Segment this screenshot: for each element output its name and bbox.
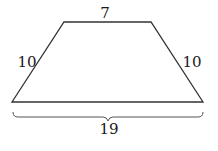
label-left: 10 xyxy=(17,53,36,71)
trapezoid-diagram: 7 10 10 19 xyxy=(0,0,218,151)
label-top: 7 xyxy=(100,4,110,22)
label-right: 10 xyxy=(182,53,201,71)
label-bottom: 19 xyxy=(99,120,118,138)
trapezoid xyxy=(12,22,203,102)
